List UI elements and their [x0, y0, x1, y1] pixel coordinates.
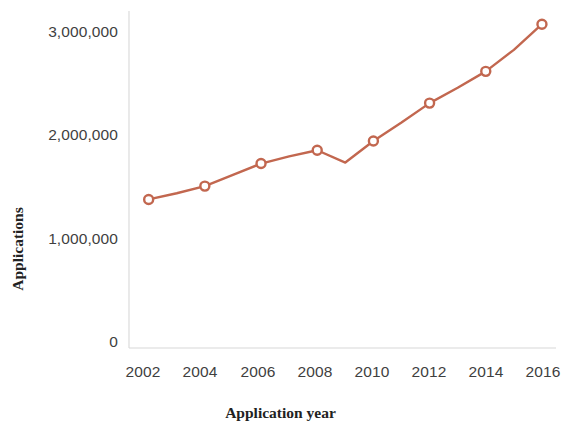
- data-point-marker: [144, 195, 153, 204]
- data-point-marker: [369, 137, 378, 146]
- xtick-label-2014: 2014: [456, 363, 516, 381]
- xtick-label-2010: 2010: [342, 363, 402, 381]
- xtick-label-2008: 2008: [285, 363, 345, 381]
- y-axis-title: Applications: [9, 169, 27, 329]
- ytick-label-3000000: 3,000,000: [0, 23, 118, 41]
- ytick-label-2000000: 2,000,000: [0, 126, 118, 144]
- x-axis-title: Application year: [0, 404, 561, 422]
- xtick-label-2012: 2012: [399, 363, 459, 381]
- data-point-marker: [425, 99, 434, 108]
- data-point-marker: [313, 146, 322, 155]
- data-point-marker: [200, 182, 209, 191]
- series-markers: [144, 20, 546, 204]
- ytick-label-0: 0: [0, 333, 118, 351]
- xtick-label-2006: 2006: [228, 363, 288, 381]
- line-chart-figure: 3,000,000 2,000,000 1,000,000 0 2002 200…: [0, 0, 561, 433]
- data-point-marker: [257, 159, 266, 168]
- series-line: [149, 24, 542, 199]
- xtick-label-2002: 2002: [113, 363, 173, 381]
- axis-lines: [129, 11, 556, 348]
- xtick-label-2016: 2016: [513, 363, 561, 381]
- data-point-marker: [481, 67, 490, 76]
- data-point-marker: [537, 20, 546, 29]
- xtick-label-2004: 2004: [170, 363, 230, 381]
